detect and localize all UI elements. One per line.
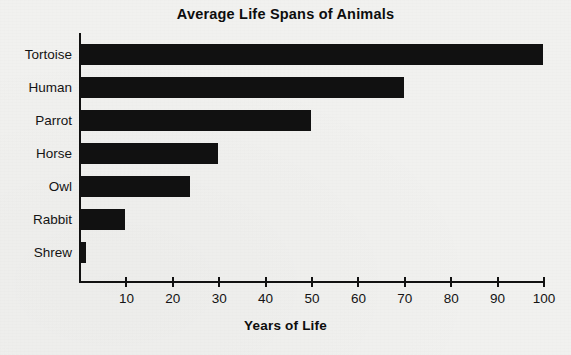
x-tick-label-60: 60 <box>338 291 378 306</box>
x-tick-mark-20 <box>172 277 174 287</box>
bar-chart-figure: Average Life Spans of Animals TortoiseHu… <box>0 0 571 355</box>
x-tick-mark-30 <box>218 277 220 287</box>
x-tick-label-100: 100 <box>524 291 564 306</box>
x-tick-label-20: 20 <box>153 291 193 306</box>
x-axis-ticks: 102030405060708090100 <box>0 0 571 355</box>
x-tick-label-50: 50 <box>292 291 332 306</box>
x-tick-label-90: 90 <box>478 291 518 306</box>
x-tick-label-40: 40 <box>246 291 286 306</box>
x-tick-mark-50 <box>311 277 313 287</box>
x-tick-label-10: 10 <box>106 291 146 306</box>
x-tick-label-80: 80 <box>431 291 471 306</box>
x-tick-mark-80 <box>450 277 452 287</box>
x-tick-mark-70 <box>404 277 406 287</box>
x-tick-mark-100 <box>543 277 545 287</box>
x-tick-label-30: 30 <box>199 291 239 306</box>
x-tick-mark-10 <box>125 277 127 287</box>
x-tick-label-70: 70 <box>385 291 425 306</box>
x-tick-mark-40 <box>265 277 267 287</box>
x-axis-title: Years of Life <box>0 318 571 333</box>
x-tick-mark-90 <box>497 277 499 287</box>
x-tick-mark-60 <box>357 277 359 287</box>
